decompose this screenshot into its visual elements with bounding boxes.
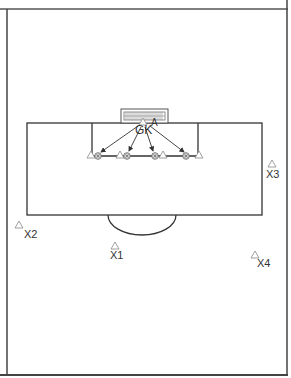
player-x4: X4 <box>251 251 270 269</box>
goalkeeper-label: GK <box>135 123 152 137</box>
player-x1: X1 <box>110 242 123 261</box>
cone-icon <box>111 242 119 249</box>
player-x2: X2 <box>15 221 37 240</box>
drill-diagram: (partially visible caption text) <box>0 0 291 378</box>
cone-icon <box>195 151 203 158</box>
player-label: X3 <box>266 168 279 180</box>
cone-icon <box>159 151 167 158</box>
attacker-label: A <box>151 117 158 128</box>
player-label: X4 <box>257 257 270 269</box>
pitch-frame <box>0 0 288 375</box>
cone-icon <box>87 151 95 158</box>
ball-icon <box>95 153 102 160</box>
ball-icon <box>183 153 190 160</box>
cone-icon <box>268 160 276 167</box>
player-label: X1 <box>110 249 123 261</box>
player-x3: X3 <box>266 160 279 180</box>
cone-icon <box>116 151 124 158</box>
player-label: X2 <box>24 228 37 240</box>
ball-icon <box>124 153 131 160</box>
cone-icon <box>15 221 23 228</box>
penalty-arc <box>108 215 176 235</box>
ball-icon <box>152 153 159 160</box>
